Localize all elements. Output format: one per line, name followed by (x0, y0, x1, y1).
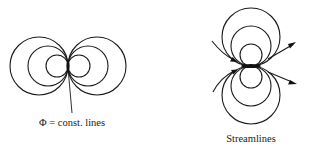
equipotential-circle-left (10, 37, 68, 95)
streamlines-label: Streamlines (226, 134, 276, 145)
outgoing-streamline-upper (268, 45, 292, 59)
singularity-point-left (66, 61, 69, 71)
streamline-circle-bottom (222, 66, 280, 124)
equipotential-circle-right (68, 55, 90, 77)
streamline-circle-bottom (231, 66, 271, 106)
outgoing-streamline-lower (268, 72, 292, 82)
potential-lines-label: Φ = const. lines (39, 118, 105, 129)
streamline-circle-top (240, 44, 262, 66)
equipotential-circle-left (46, 55, 68, 77)
equipotential-circle-right (68, 46, 108, 86)
arrow-icon (288, 42, 296, 49)
equipotential-circle-left (28, 46, 68, 86)
equipotential-circle-right (68, 37, 126, 95)
streamline-circle-bottom (240, 66, 262, 88)
streamline-circle-top (231, 26, 271, 66)
singularity-point (241, 64, 261, 68)
